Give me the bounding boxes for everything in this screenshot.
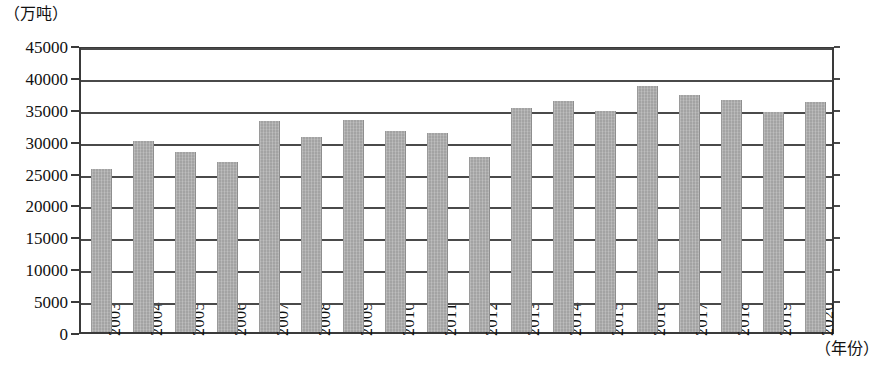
y-axis-tick [71, 174, 79, 176]
gridline-overshoot [834, 269, 840, 271]
y-axis-tick-label: 20000 [0, 198, 68, 215]
x-axis-title: （年份） [815, 340, 879, 358]
bar [175, 152, 196, 332]
y-axis-tick-label: 40000 [0, 71, 68, 88]
bar [385, 131, 406, 332]
y-axis-tick [71, 301, 79, 303]
x-axis-tick-label-group: 2003200420052006200720082009201020112012… [79, 334, 834, 378]
gridline-overshoot [834, 174, 840, 176]
y-axis-tick [71, 237, 79, 239]
y-axis-tick-label: 45000 [0, 39, 68, 56]
y-axis-tick [71, 205, 79, 207]
bar [763, 112, 784, 332]
y-axis-tick [71, 110, 79, 112]
bar [259, 121, 280, 332]
y-axis-tick [71, 142, 79, 144]
y-axis-tick-label: 15000 [0, 230, 68, 247]
bar [91, 169, 112, 332]
bar [217, 162, 238, 332]
gridline-overshoot [834, 142, 840, 144]
bar [595, 111, 616, 332]
gridline-overshoot [834, 110, 840, 112]
bar-chart: （万吨） 05000100001500020000250003000035000… [0, 0, 896, 378]
bar [721, 100, 742, 332]
gridline-overshoot [834, 78, 840, 80]
y-axis-tick-label: 10000 [0, 262, 68, 279]
bar [511, 108, 532, 332]
gridline-overshoot [834, 46, 840, 48]
bar [469, 157, 490, 332]
gridline-overshoot [834, 237, 840, 239]
y-axis-tick-label: 30000 [0, 135, 68, 152]
y-axis-tick-label-group: 0500010000150002000025000300003500040000… [0, 0, 68, 378]
gridline-overshoot [834, 205, 840, 207]
plot-area [79, 47, 834, 334]
bar [805, 102, 826, 332]
bar [301, 137, 322, 332]
y-axis-tick [71, 269, 79, 271]
bar-group [81, 49, 832, 332]
bar [553, 101, 574, 332]
y-axis-tick [71, 333, 79, 335]
bar [343, 120, 364, 332]
bar [637, 86, 658, 332]
gridline-overshoot [834, 301, 840, 303]
y-axis-tick-label: 5000 [0, 294, 68, 311]
y-axis-tick-label: 0 [0, 326, 68, 343]
bar [427, 133, 448, 332]
y-axis-tick [71, 78, 79, 80]
bar [133, 141, 154, 332]
y-axis-tick [71, 46, 79, 48]
y-axis-tick-label: 35000 [0, 103, 68, 120]
bar [679, 95, 700, 332]
y-axis-tick-label: 25000 [0, 167, 68, 184]
